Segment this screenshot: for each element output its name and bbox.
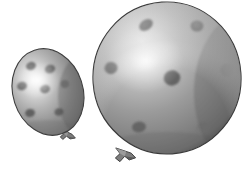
small-balloon-highlight: [16, 61, 60, 99]
image-canvas: [0, 0, 252, 172]
balloons-illustration: [0, 0, 252, 172]
large-balloon-rim-light: [93, 2, 241, 154]
